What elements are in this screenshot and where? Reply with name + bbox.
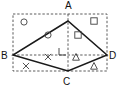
triangle-marker-icon [73,54,80,61]
square-marker-icon [91,18,97,24]
figure-canvas: A B C D [0,0,120,87]
right-angle-mark-center [59,48,66,55]
triangle-marker-icon [91,63,98,70]
geometry-figure: A B C D [0,0,120,87]
circle-marker-icon [21,19,27,25]
vertex-label-c: C [63,76,70,87]
vertex-label-b: B [1,50,8,61]
rhombus-abcd [13,21,107,71]
vertex-label-a: A [65,0,72,11]
vertex-label-d: D [109,50,116,61]
x-marker-icon [23,63,29,69]
square-marker-icon [75,32,81,38]
